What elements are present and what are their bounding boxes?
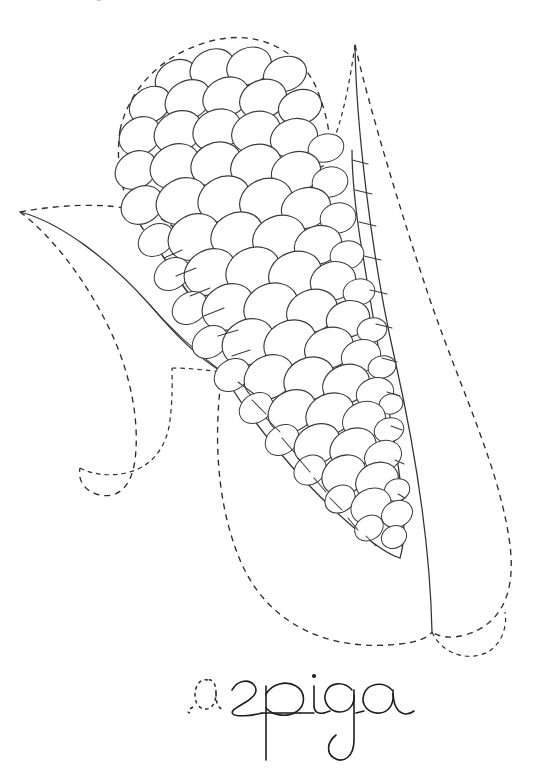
cob-kernels — [108, 40, 417, 553]
caption-letter-s — [232, 681, 262, 716]
caption-trace-letter-a — [188, 680, 222, 713]
caption-letter-g — [325, 684, 354, 760]
caption-letter-i — [312, 674, 324, 713]
caption-letter-p — [266, 683, 304, 760]
corn-illustration — [0, 0, 557, 770]
caption-letter-a — [363, 684, 414, 714]
caption-word — [188, 674, 414, 760]
worksheet-page: spiga — [0, 0, 557, 770]
